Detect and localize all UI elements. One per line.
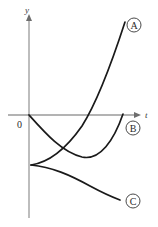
curve-label-badge-c: C	[126, 194, 140, 208]
y-axis-label: y	[24, 5, 29, 15]
curve-b	[29, 114, 123, 157]
t-axis-arrowhead	[134, 112, 141, 118]
curve-a-path	[31, 22, 125, 165]
badge-b-label: B	[130, 123, 137, 134]
curve-label-badge-a: A	[127, 18, 141, 32]
curve-c-path	[31, 165, 120, 200]
y-axis-arrowhead	[26, 14, 32, 21]
math-graph-figure: y t 0 A B C	[0, 0, 158, 227]
badge-c-label: C	[130, 196, 137, 207]
t-axis-label: t	[145, 110, 148, 120]
curve-b-path	[29, 114, 123, 157]
curve-a	[31, 22, 125, 165]
curve-label-badge-b: B	[126, 121, 140, 135]
curve-c	[31, 165, 120, 200]
badge-a-label: A	[130, 20, 138, 31]
graph-canvas: y t 0 A B C	[0, 0, 158, 227]
origin-label: 0	[17, 119, 22, 130]
